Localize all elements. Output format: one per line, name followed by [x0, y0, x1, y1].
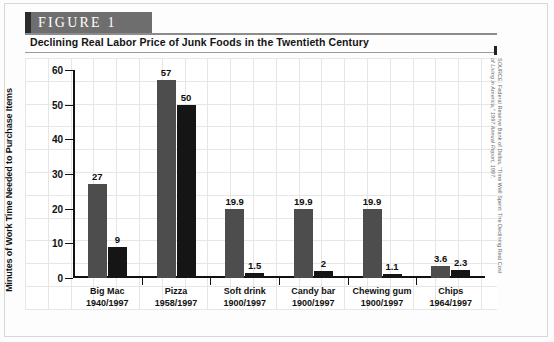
y-tick-label: 60	[52, 65, 63, 76]
category-years: 1940/1997	[86, 298, 129, 310]
page-title: Declining Real Labor Price of Junk Foods…	[30, 36, 490, 48]
bar-value-label: 1.1	[385, 261, 398, 272]
figure-root: FIGURE 1 Declining Real Labor Price of J…	[0, 0, 554, 342]
y-tick-label: 0	[57, 273, 63, 284]
y-tick-label: 20	[52, 203, 63, 214]
chart-axes: 0102030405060 279575019.91.519.9219.91.1…	[73, 70, 485, 278]
x-category-label: Candy bar1900/1997	[291, 286, 335, 309]
x-category-label: Chips1964/1997	[429, 286, 472, 309]
category-years: 1900/1997	[223, 298, 266, 310]
category-name: Soft drink	[224, 286, 266, 296]
y-tick-mark	[65, 105, 73, 106]
y-tick-label: 10	[52, 238, 63, 249]
bar	[431, 266, 450, 278]
category-name: Candy bar	[291, 286, 335, 296]
category-name: Pizza	[165, 286, 188, 296]
bar	[88, 184, 107, 278]
bar-value-label: 9	[115, 234, 120, 245]
x-axis-divider	[348, 278, 349, 285]
bar	[314, 271, 333, 278]
y-tick-label: 50	[52, 99, 63, 110]
category-years: 1964/1997	[429, 298, 472, 310]
bar	[294, 209, 313, 278]
category-name: Chewing gum	[353, 286, 412, 296]
category-years: 1900/1997	[353, 298, 412, 310]
bar-value-label: 19.9	[294, 196, 313, 207]
bar	[245, 273, 264, 278]
bar	[108, 247, 127, 278]
x-axis-divider	[142, 278, 143, 285]
category-years: 1958/1997	[155, 298, 198, 310]
y-tick-label: 30	[52, 169, 63, 180]
plot-area: Minutes of Work Time Needed to Purchase …	[25, 58, 497, 310]
y-tick-mark	[65, 70, 73, 71]
bar	[363, 209, 382, 278]
category-name: Big Mac	[90, 286, 125, 296]
title-rule-top	[25, 33, 497, 35]
bar-value-label: 2	[321, 258, 326, 269]
y-tick-mark	[65, 278, 73, 279]
bar	[451, 270, 470, 278]
x-axis-divider	[416, 278, 417, 285]
bar	[177, 105, 196, 278]
title-end-marker	[494, 46, 497, 55]
title-rule-bottom	[25, 52, 497, 53]
x-axis-divider	[279, 278, 280, 285]
y-tick-label: 40	[52, 134, 63, 145]
source-note: SOURCE: Federal Reserve Bank of Dallas, …	[489, 58, 503, 308]
bar-value-label: 1.5	[248, 260, 261, 271]
y-tick-mark	[65, 243, 73, 244]
banner-left-edge	[25, 12, 31, 33]
source-line-2: of Living in America,” 1997 Annual Repor…	[490, 58, 496, 179]
bar	[225, 209, 244, 278]
bar-value-label: 19.9	[363, 196, 382, 207]
figure-number-banner: FIGURE 1	[25, 12, 152, 33]
x-axis-divider	[210, 278, 211, 285]
y-axis-line	[73, 70, 75, 278]
x-category-label: Chewing gum1900/1997	[353, 286, 412, 309]
source-line-1: SOURCE: Federal Reserve Bank of Dallas, …	[497, 58, 503, 273]
bar-value-label: 27	[92, 171, 103, 182]
bar	[157, 80, 176, 278]
y-tick-mark	[65, 139, 73, 140]
category-name: Chips	[438, 286, 463, 296]
x-category-label: Big Mac1940/1997	[86, 286, 129, 309]
x-category-label: Pizza1958/1997	[155, 286, 198, 309]
bar-value-label: 50	[181, 92, 192, 103]
y-axis-title: Minutes of Work Time Needed to Purchase …	[4, 86, 14, 294]
x-category-label: Soft drink1900/1997	[223, 286, 266, 309]
bar-value-label: 57	[161, 67, 172, 78]
bar-value-label: 2.3	[454, 257, 467, 268]
y-tick-mark	[65, 174, 73, 175]
bar-value-label: 19.9	[225, 196, 244, 207]
y-tick-mark	[65, 209, 73, 210]
figure-number-label: FIGURE 1	[38, 15, 117, 31]
category-years: 1900/1997	[291, 298, 335, 310]
bar-value-label: 3.6	[434, 253, 447, 264]
bar	[383, 274, 402, 278]
